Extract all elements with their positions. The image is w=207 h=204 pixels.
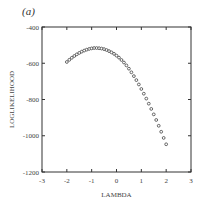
- data-point: [157, 124, 160, 127]
- x-tick-label: -2: [64, 177, 70, 185]
- data-point: [150, 108, 153, 111]
- y-tick-label: -1200: [23, 169, 40, 177]
- data-point: [132, 75, 135, 78]
- data-point: [125, 64, 128, 67]
- data-point: [115, 54, 118, 57]
- data-point: [165, 143, 168, 146]
- panel-label: (a): [22, 5, 35, 17]
- data-point: [147, 102, 150, 105]
- x-axis-label: LAMBDA: [101, 191, 131, 199]
- data-point: [130, 71, 133, 74]
- loglikelihood-chart: (a) -3-2-10123-400-600-800-1000-1200LAMB…: [0, 0, 207, 204]
- data-point: [120, 59, 123, 62]
- data-point: [162, 137, 165, 140]
- data-point: [65, 61, 68, 64]
- data-point: [68, 58, 71, 61]
- plot-frame: [42, 27, 191, 172]
- y-tick-label: -1000: [23, 132, 40, 140]
- plot-area: -3-2-10123-400-600-800-1000-1200LAMBDALO…: [0, 0, 207, 204]
- data-point: [128, 67, 131, 70]
- data-point: [152, 113, 155, 116]
- x-tick-label: 3: [189, 177, 193, 185]
- y-tick-label: -600: [26, 60, 39, 68]
- data-point: [142, 92, 145, 95]
- x-tick-label: -1: [89, 177, 95, 185]
- data-point: [118, 56, 121, 59]
- data-point: [145, 97, 148, 100]
- data-point: [123, 61, 126, 64]
- x-tick-label: 1: [140, 177, 144, 185]
- data-point: [140, 88, 143, 91]
- x-tick-label: -3: [39, 177, 45, 185]
- y-axis-label: LOGLIKELIHOOD: [8, 71, 16, 128]
- x-tick-label: 2: [164, 177, 168, 185]
- data-point: [155, 119, 158, 122]
- data-point: [135, 79, 138, 82]
- y-tick-label: -400: [26, 24, 39, 32]
- data-point: [137, 83, 140, 86]
- x-tick-label: 0: [115, 177, 119, 185]
- y-tick-label: -800: [26, 96, 39, 104]
- data-point: [160, 130, 163, 133]
